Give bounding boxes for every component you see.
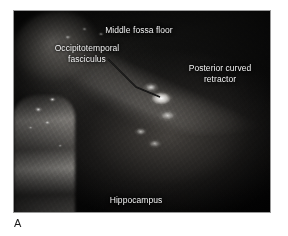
fasciculus-pointer-line [14,11,270,212]
panel-letter: A [14,217,21,230]
surgical-photograph-image: Middle fossa floor Occipitotemporal fasc… [14,11,270,212]
surgical-photograph-frame: Middle fossa floor Occipitotemporal fasc… [13,10,271,213]
figure-panel: Middle fossa floor Occipitotemporal fasc… [0,0,288,236]
